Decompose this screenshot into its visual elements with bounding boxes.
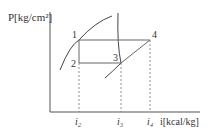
tick-i2: i₂	[75, 116, 82, 127]
tick-i4: i₄	[147, 116, 154, 127]
saturated-vapor-curve	[105, 13, 121, 78]
p-i-diagram: P[kg/cm²] i[kcal/kg] 1 2 3 4 i₂ i₃ i₄	[0, 0, 211, 128]
line-3-4	[121, 40, 150, 63]
point-1-label: 1	[72, 29, 77, 40]
point-4-label: 4	[152, 29, 157, 40]
point-2-label: 2	[71, 58, 76, 69]
tick-i3: i₃	[117, 116, 124, 127]
x-axis-label: i[kcal/kg]	[160, 116, 199, 127]
point-3-label: 3	[113, 52, 118, 63]
saturated-liquid-curve	[60, 16, 112, 70]
y-axis-label: P[kg/cm²]	[8, 11, 52, 23]
